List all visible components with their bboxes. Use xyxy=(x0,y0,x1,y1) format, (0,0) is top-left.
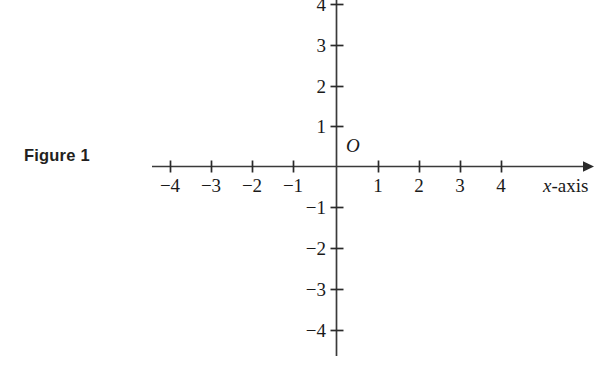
y-tick-label: 2 xyxy=(317,77,327,96)
x-axis-arrowhead xyxy=(583,161,594,171)
x-tick-label: −4 xyxy=(160,176,180,195)
y-tick-label: −3 xyxy=(306,280,326,299)
x-tick-label: 3 xyxy=(455,176,465,195)
y-tick-label: −4 xyxy=(306,321,326,340)
y-tick-label: 4 xyxy=(317,0,327,14)
x-tick-label: 2 xyxy=(414,176,424,195)
x-tick-label: −1 xyxy=(283,176,303,195)
figure-canvas: Figure 1 xyxy=(0,0,616,371)
y-tick-label: −2 xyxy=(306,239,326,258)
x-axis-label-suffix: -axis xyxy=(551,175,588,196)
x-tick-label: 4 xyxy=(496,176,506,195)
y-tick-label: 3 xyxy=(317,36,327,55)
coordinate-axes xyxy=(0,0,616,371)
y-tick-label: 1 xyxy=(317,117,327,136)
origin-label: O xyxy=(346,136,360,155)
y-tick-label: −1 xyxy=(306,198,326,217)
x-tick-label: −2 xyxy=(242,176,262,195)
x-axis-label: x-axis xyxy=(543,176,588,195)
x-tick-label: −3 xyxy=(201,176,221,195)
x-tick-label: 1 xyxy=(373,176,383,195)
